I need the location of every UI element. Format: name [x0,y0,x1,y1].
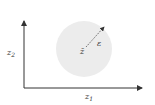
x-axis-label: z1 [84,92,93,102]
radius-label: ε [97,39,101,48]
center-label: z̄ [79,47,85,56]
diagram-canvas: z̄ ε z2 z1 [0,0,155,105]
y-axis-label: z2 [6,48,15,58]
